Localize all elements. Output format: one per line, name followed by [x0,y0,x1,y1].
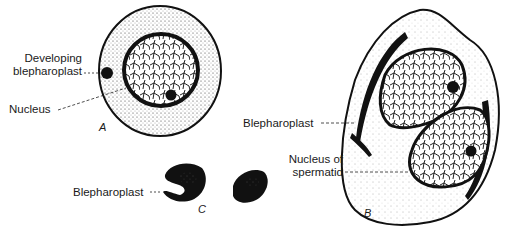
nucleolus-a [166,90,177,101]
label-blepharoplast-b: Blepharoplast [243,117,313,130]
blepharoplast-c-shapes [163,164,268,203]
label-blepharoplast-c: Blepharoplast [73,186,143,199]
panel-letter-b: B [364,207,371,219]
panel-letter-c: C [198,203,206,215]
developing-blepharoplast-dot [101,67,113,79]
panel-letter-a: A [99,121,106,133]
label-nucleus: Nucleus [9,103,51,116]
cell-b [342,10,499,225]
label-developing-blepharoplast: Developing blepharoplast [0,52,82,78]
cell-a [99,6,221,136]
label-nucleus-of-spermatid: Nucleus of spermatid [270,153,343,179]
